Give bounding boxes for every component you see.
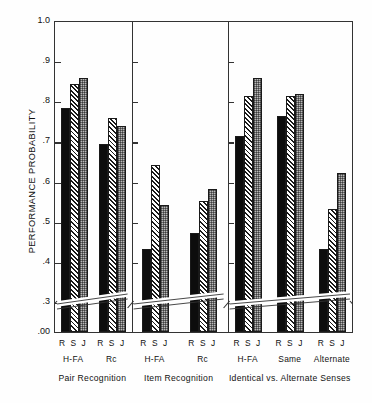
bar-j: [253, 78, 262, 332]
bar-r: [319, 249, 328, 332]
bar-group: [99, 22, 126, 332]
group-series-tick-label: R S J: [302, 338, 362, 348]
bar-group: [277, 22, 304, 332]
bar-r: [142, 249, 151, 332]
y-tick-label: .5: [24, 217, 50, 226]
bar-j: [295, 94, 304, 332]
bar-j: [337, 173, 346, 332]
x-tick-row-panel: Pair RecognitionItem RecognitionIdentica…: [54, 373, 353, 385]
y-tick-label: .8: [24, 96, 50, 105]
bar-s: [70, 84, 79, 332]
bar-s: [244, 96, 253, 332]
y-tick-label: .3: [24, 297, 50, 306]
bar-group: [190, 22, 217, 332]
chart-figure: PERFORMANCE PROBABILITY 1.0.9.8.7.6.5.4.…: [0, 0, 372, 403]
bar-group: [61, 22, 88, 332]
x-tick-row-rsj: R S JR S JR S JR S JR S JR S JR S J: [54, 338, 353, 350]
panel-3: [228, 22, 354, 332]
bar-s: [151, 165, 160, 332]
bar-s: [108, 118, 117, 332]
bar-r: [190, 233, 199, 332]
group-name-label: Alternate: [302, 354, 362, 364]
y-tick-label: .6: [24, 177, 50, 186]
plot-area: [54, 21, 353, 333]
bar-r: [61, 108, 70, 332]
bar-group: [235, 22, 262, 332]
bar-j: [79, 78, 88, 332]
y-tick-label: .00: [24, 327, 50, 336]
bar-s: [286, 96, 295, 332]
bar-r: [235, 136, 244, 332]
panel-1: [55, 22, 132, 332]
bar-j: [160, 205, 169, 332]
panel-title: Identical vs. Alternate Senses: [210, 373, 370, 383]
bar-group: [142, 22, 169, 332]
bar-group: [319, 22, 346, 332]
bar-j: [208, 189, 217, 332]
y-tick-label: .9: [24, 56, 50, 65]
bar-s: [199, 201, 208, 332]
y-tick-label: 1.0: [24, 16, 50, 25]
y-tick-label: .7: [24, 136, 50, 145]
x-tick-row-group: H-FARcH-FARcH-FASameAlternate: [54, 354, 353, 366]
bar-s: [328, 209, 337, 332]
bar-r: [277, 116, 286, 332]
bar-r: [99, 144, 108, 332]
bar-j: [117, 126, 126, 332]
panel-2: [132, 22, 228, 332]
y-tick-label: .4: [24, 257, 50, 266]
